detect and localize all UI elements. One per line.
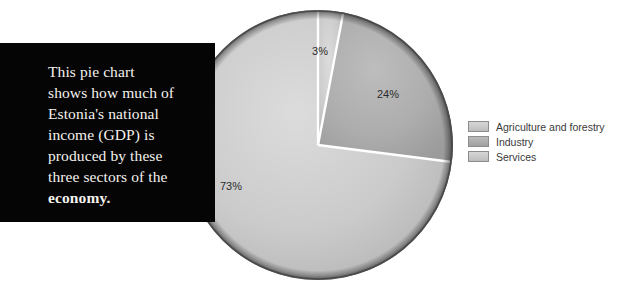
caption-line: This pie chart [48,61,208,82]
legend-swatch-icon [468,151,489,162]
caption-line: income (GDP) is [48,124,208,145]
pie-label-agriculture: 3% [312,45,328,57]
caption-box: This pie chart shows how much of Estonia… [0,43,215,222]
legend-item-services: Services [468,150,618,163]
legend-label: Agriculture and forestry [496,121,605,133]
caption-text: This pie chart shows how much of Estonia… [48,61,208,208]
legend-item-industry: Industry [468,135,618,148]
pie-chart: 3% 24% 73% [183,10,453,280]
legend-item-agriculture-and-forestry: Agriculture and forestry [468,120,618,133]
legend-label: Services [496,151,536,163]
pie-chart-figure: 3% 24% 73% This pie chart shows how much… [0,0,623,296]
caption-line: produced by these [48,145,208,166]
caption-line: three sectors of the [48,166,208,187]
caption-emphasis-word: economy. [48,187,208,208]
caption-line: shows how much of [48,82,208,103]
chart-legend: Agriculture and forestry Industry Servic… [468,120,618,165]
legend-label: Industry [496,136,533,148]
pie-chart-svg: 3% 24% 73% [183,10,453,280]
pie-label-industry: 24% [377,88,399,100]
pie-label-services: 73% [220,180,242,192]
legend-swatch-icon [468,136,489,147]
caption-line: Estonia's national [48,103,208,124]
legend-swatch-icon [468,121,489,132]
